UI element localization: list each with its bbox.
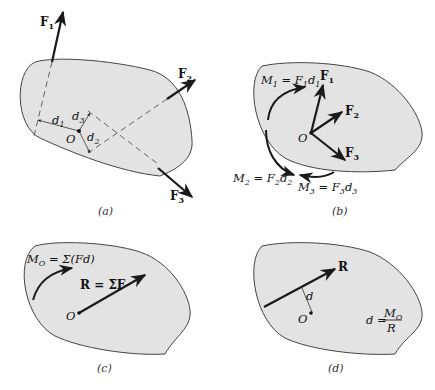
label-f1: F1	[40, 15, 54, 31]
panel-a: F1 F2 F3 d1 d3 d2 O (a)	[20, 12, 195, 218]
caption-d: (d)	[328, 362, 344, 375]
panel-b: F1 F2 F3 O M1 = F1d1 M2 = F2d2 M3 = F3d3…	[232, 63, 422, 218]
rigid-body	[20, 59, 192, 176]
label-o: O	[298, 131, 308, 145]
point-o	[77, 129, 81, 133]
label-r-eq: R = ΣF	[80, 278, 126, 292]
caption-c: (c)	[97, 362, 112, 375]
label-o: O	[298, 312, 308, 326]
label-r: R	[338, 260, 349, 274]
point-o	[309, 131, 313, 135]
label-d: d	[306, 289, 313, 303]
label-o: O	[66, 309, 76, 323]
force-f1-arrow	[52, 12, 63, 62]
label-mo: MO = Σ(Fd)	[26, 252, 95, 268]
svg-text:R: R	[386, 321, 396, 335]
label-m3: M3 = F3d3	[297, 180, 357, 196]
panel-c: MO = Σ(Fd) R = ΣF O (c)	[24, 243, 190, 375]
label-o: O	[66, 132, 76, 146]
caption-b: (b)	[332, 205, 348, 218]
label-m1: M1 = F1d1	[260, 73, 320, 89]
point-o	[309, 311, 313, 315]
panel-d: R d O d = MO R (d)	[254, 243, 422, 375]
resultant-force-diagram: F1 F2 F3 d1 d3 d2 O (a) F1 F2 F3 O M1 = …	[0, 0, 435, 390]
label-f3: F3	[170, 189, 185, 205]
caption-a: (a)	[98, 205, 113, 218]
label-f2: F2	[178, 67, 192, 83]
point-o	[77, 311, 81, 315]
moment-m3-arrow	[300, 172, 334, 177]
label-m2: M2 = F2d2	[232, 171, 292, 187]
